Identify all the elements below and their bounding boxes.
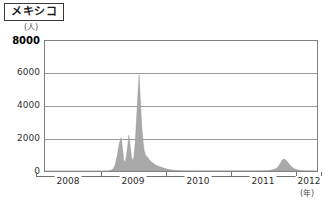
x-tick-2009-boundary: [101, 172, 102, 177]
x-axis-left-cap: [36, 172, 37, 177]
x-tick-2010-boundary: [166, 172, 167, 177]
x-tick-label-2012: 2012: [296, 176, 323, 186]
x-tick-label-2008: 2008: [55, 176, 82, 186]
x-tick-2011-boundary: [231, 172, 232, 177]
x-tick-label-2009: 2009: [120, 176, 147, 186]
x-tick-label-2010: 2010: [185, 176, 212, 186]
series-group: [45, 75, 317, 171]
x-tick-label-2011: 2011: [250, 176, 277, 186]
chart-root: メキシコ (人) (年) 8000 6000 4000 2000 0 2008 …: [0, 0, 325, 201]
series-area-chart: [0, 0, 325, 201]
